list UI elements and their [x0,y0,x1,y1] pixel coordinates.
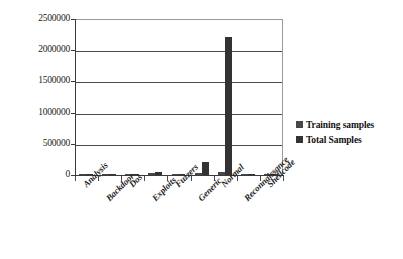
bars-layer [75,19,283,175]
x-tick-mark [167,176,168,181]
y-tick-mark [71,50,76,51]
x-tick-label-backdoor: Backdoor [104,171,136,203]
y-tick-mark [71,113,76,114]
y-tick-mark [71,81,76,82]
x-tick-mark [121,176,122,181]
x-tick-mark [144,176,145,181]
legend-item: Total Samples [296,133,400,146]
x-tick-mark [98,176,99,181]
y-tick-label: 1000000 [6,108,70,117]
legend-label: Training samples [306,120,374,130]
legend-swatch-icon [296,136,303,143]
chart-legend: Training samplesTotal Samples [296,118,400,148]
y-tick-label: 2000000 [6,45,70,54]
x-axis-labels: AnalysisBackdoorDosExploitsFuzzersGeneri… [0,176,403,259]
bar-generic-total [202,162,209,175]
legend-swatch-icon [296,121,303,128]
x-tick-label-exploits: Exploits [150,175,178,203]
x-tick-mark [260,176,261,181]
x-tick-mark [75,176,76,181]
y-tick-label: 2500000 [6,14,70,23]
x-tick-mark [191,176,192,181]
y-tick-mark [71,19,76,20]
x-tick-mark [214,176,215,181]
y-tick-label: 500000 [6,139,70,148]
chart-figure: 25000002000000150000010000005000000 Anal… [0,0,403,259]
y-tick-mark [71,144,76,145]
legend-item: Training samples [296,118,400,131]
x-tick-mark [237,176,238,181]
y-tick-label: 1500000 [6,76,70,85]
legend-label: Total Samples [306,135,362,145]
bar-normal-total [225,37,232,175]
x-tick-mark [283,176,284,181]
